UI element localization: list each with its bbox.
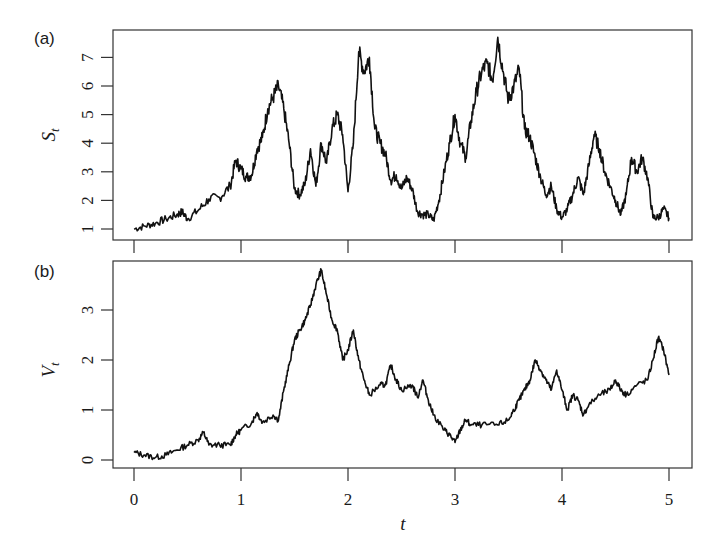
- panel-a-y-axis-title: St: [38, 128, 62, 142]
- panel-b-x-axis: 012345: [130, 468, 674, 509]
- x-axis-title: t: [400, 513, 406, 534]
- panel-b-y-axis: 0123: [78, 306, 113, 465]
- y-tick-label: 5: [78, 110, 97, 119]
- y-tick-label: 0: [78, 456, 97, 465]
- x-tick-label: 4: [558, 490, 567, 509]
- y-tick-label: 1: [78, 406, 97, 415]
- panel-b-label: (b): [34, 262, 55, 281]
- y-tick-label: 6: [78, 82, 97, 91]
- v-t-series-line: [134, 269, 669, 460]
- panel-b-y-axis-title: Vt: [38, 362, 62, 378]
- y-tick-label: 3: [78, 168, 97, 177]
- x-tick-label: 0: [130, 490, 139, 509]
- x-tick-label: 2: [344, 490, 353, 509]
- panel-a-y-axis: 1234567: [78, 53, 113, 234]
- x-tick-label: 3: [451, 490, 460, 509]
- panel-a-label: (a): [34, 29, 55, 48]
- figure: (a) 1234567 St (b) 0123 012345 Vt t: [0, 0, 718, 554]
- y-tick-label: 1: [78, 225, 97, 234]
- y-tick-label: 3: [78, 306, 97, 315]
- y-tick-label: 4: [78, 138, 97, 147]
- y-tick-label: 2: [78, 356, 97, 365]
- s-t-series-line: [134, 37, 669, 230]
- y-tick-label: 2: [78, 196, 97, 205]
- x-tick-label: 1: [237, 490, 246, 509]
- y-tick-label: 7: [78, 53, 97, 62]
- x-tick-label: 5: [665, 490, 674, 509]
- panel-a: (a) 1234567 St: [34, 29, 692, 253]
- panel-a-x-axis: [134, 240, 669, 253]
- panel-b: (b) 0123 012345 Vt t: [34, 261, 692, 534]
